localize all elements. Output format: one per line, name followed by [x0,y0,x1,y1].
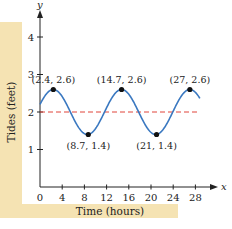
data-point [119,87,124,92]
x-axis-arrow-icon [210,184,218,190]
y-tick-label: 4 [28,32,34,43]
x-axis-letter: x [221,181,227,192]
y-axis-arrow-icon [37,10,43,18]
data-point [86,132,91,137]
x-tick-label: 24 [167,192,180,203]
y-tick-label: 2 [28,107,34,118]
data-point-label: (14.7, 2.6) [97,74,147,85]
data-point-label: (27, 2.6) [170,74,211,85]
data-point-label: (2.4, 2.6) [31,74,75,85]
data-point [187,87,192,92]
y-axis-letter: y [36,0,43,10]
data-point-label: (8.7, 1.4) [66,140,110,151]
x-tick-label: 20 [145,192,158,203]
data-point [51,87,56,92]
x-tick-label: 12 [100,192,113,203]
tide-chart: xy04812162024281234(2.4, 2.6)(8.7, 1.4)(… [0,0,232,229]
x-tick-label: 4 [59,192,65,203]
x-tick-label: 16 [122,192,135,203]
y-tick-label: 1 [28,144,34,155]
x-tick-label: 0 [37,192,43,203]
x-tick-label: 8 [81,192,87,203]
data-point [154,132,159,137]
x-tick-label: 28 [189,192,202,203]
tide-curve [40,90,200,135]
data-point-label: (21, 1.4) [136,140,177,151]
